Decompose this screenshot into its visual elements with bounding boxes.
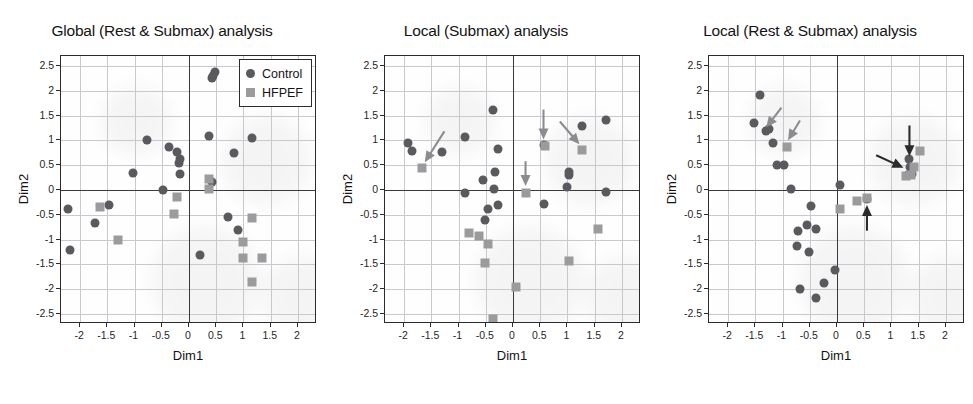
x-tick-mark [215,323,216,327]
y-tick-label: -0.5 [684,208,702,220]
x-tick-mark [430,323,431,327]
x-tick-mark [809,323,810,327]
data-point-control [489,184,498,193]
legend-item-control: Control [246,64,303,83]
y-tick-label: 1 [48,133,54,145]
gridline-vertical [431,56,432,322]
data-point-control [831,266,840,275]
data-point-control [175,169,184,178]
data-point-control [461,133,470,142]
gridline-vertical [486,56,487,322]
gridline-horizontal [709,314,963,315]
legend-circle-marker-icon [246,69,255,78]
gridline-horizontal [385,140,639,141]
y-tick-mark [704,313,708,314]
y-tick-label: 2 [372,84,378,96]
data-point-control [812,224,821,233]
data-point-control [234,226,243,235]
y-tick-label: 1.5 [363,109,378,121]
zero-axis-horizontal [709,190,963,191]
x-tick-label: -1 [453,329,462,341]
data-point-control [806,202,815,211]
gridline-horizontal [61,314,315,315]
y-tick-mark [56,164,60,165]
data-point-hfpef [565,257,574,266]
x-tick-label: -1.5 [421,329,439,341]
x-tick-label: 0 [833,329,839,341]
y-tick-label: 2.5 [687,59,702,71]
data-point-control [491,168,500,177]
y-tick-mark [704,65,708,66]
x-tick-label: 0.5 [532,329,547,341]
gridline-vertical [919,56,920,322]
x-tick-mark [836,323,837,327]
x-tick-label: 2 [618,329,624,341]
x-tick-mark [945,323,946,327]
x-tick-label: 1.5 [910,329,925,341]
x-tick-mark [270,323,271,327]
gridline-horizontal [61,215,315,216]
data-point-control [196,250,205,259]
data-point-control [786,184,795,193]
y-tick-mark [380,139,384,140]
y-tick-mark [56,214,60,215]
data-point-control [750,119,759,128]
x-tick-label: 0.5 [856,329,871,341]
data-point-control [812,294,821,303]
y-tick-label: 1.5 [39,109,54,121]
gridline-horizontal [709,140,963,141]
y-tick-label: -2 [45,282,54,294]
zero-axis-horizontal [61,190,315,191]
data-point-control [91,218,100,227]
data-point-hfpef [540,142,549,151]
data-point-hfpef [239,254,248,263]
data-point-control [578,121,587,130]
data-point-control [602,116,611,125]
legend-label-hfpef: HFPEF [262,86,303,100]
data-point-control [539,199,548,208]
paper-smudge [101,86,171,156]
data-point-control [174,158,183,167]
y-tick-label: 0 [372,183,378,195]
data-point-control [563,182,572,191]
gridline-vertical [80,56,81,322]
data-point-control [793,227,802,236]
y-tick-mark [56,313,60,314]
y-tick-label: 0.5 [363,158,378,170]
data-point-control [564,171,573,180]
data-point-hfpef [248,213,257,222]
y-tick-mark [56,288,60,289]
x-tick-mark [242,323,243,327]
x-tick-mark [727,323,728,327]
y-tick-label: -2 [369,282,378,294]
data-point-control [65,246,74,255]
data-point-control [602,187,611,196]
gridline-horizontal [385,66,639,67]
gridline-vertical [946,56,947,322]
gridline-vertical [891,56,892,322]
zero-axis-vertical [837,56,838,322]
data-point-control [804,247,813,256]
y-tick-label: -0.5 [36,208,54,220]
x-tick-mark [539,323,540,327]
data-point-hfpef [512,283,521,292]
y-tick-mark [704,139,708,140]
data-point-control [63,204,72,213]
data-point-hfpef [521,189,530,198]
data-point-hfpef [852,196,861,205]
gridline-horizontal [385,116,639,117]
y-tick-mark [380,263,384,264]
y-tick-label: 0.5 [39,158,54,170]
y-tick-label: -1 [369,233,378,245]
legend-square-marker-icon [246,88,255,97]
data-point-hfpef [239,238,248,247]
y-tick-mark [380,239,384,240]
gridline-horizontal [709,91,963,92]
x-tick-mark [106,323,107,327]
data-point-control [820,279,829,288]
data-point-control [755,90,764,99]
x-tick-label: 0 [185,329,191,341]
data-point-hfpef [862,194,871,203]
gridline-horizontal [709,289,963,290]
x-tick-label: -2 [74,329,83,341]
